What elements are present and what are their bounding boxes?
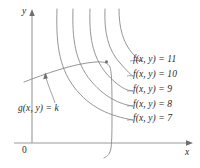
constraint-pointer-group — [46, 78, 55, 103]
level-curve-label-10: f(x, y) = 10 — [133, 69, 177, 79]
level-curve-label-7: f(x, y) = 7 — [133, 113, 172, 123]
lagrange-multiplier-figure: y x 0 f(x, y) = 11 f(x, y) = 10 f(x, y) … — [0, 0, 200, 168]
level-curve-f-8 — [73, 9, 133, 106]
tangency-point — [105, 60, 108, 63]
level-curves-group — [57, 9, 142, 120]
y-axis-label: y — [22, 6, 26, 16]
origin-label: 0 — [22, 145, 27, 155]
x-axis-arrowhead — [186, 140, 193, 145]
constraint-pointer-line — [46, 78, 55, 103]
x-axis-label: x — [185, 147, 189, 157]
level-curve-label-9: f(x, y) = 9 — [133, 84, 172, 94]
level-curve-label-11: f(x, y) = 11 — [133, 54, 176, 64]
y-axis-arrowhead — [29, 9, 34, 16]
level-curve-label-8: f(x, y) = 8 — [133, 99, 172, 109]
constraint-curve-label: g(x, y) = k — [18, 103, 59, 113]
